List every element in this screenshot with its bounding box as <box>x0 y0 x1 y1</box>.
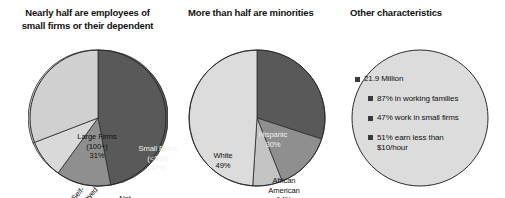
pie-chart-employment: Large Firms (100+) 31% Small Firms (<100… <box>28 48 168 188</box>
legend-item-total: 21.9 Million <box>355 74 489 85</box>
pie-label-african-american: African American 14% <box>257 176 311 198</box>
page-title-employment: Nearly half are employees of small firms… <box>0 7 175 32</box>
pie-chart-minorities: Hispanic 30% White 49% African American … <box>187 48 327 188</box>
square-bullet-icon <box>355 77 360 82</box>
legend-item-low-wage: 51% earn less than $10/hour <box>368 133 489 154</box>
square-bullet-icon <box>368 96 373 101</box>
pie-label-hispanic: Hispanic 30% <box>247 130 299 149</box>
legend-item-label: 87% in working families <box>377 94 458 105</box>
chart-panel-minorities: More than half are minorities Hispanic 3… <box>175 0 340 198</box>
legend-item-label: 21.9 Million <box>364 74 403 85</box>
legend-item-small-firms: 47% work in small firms <box>368 113 489 124</box>
pie-label-large-firms: Large Firms (100+) 31% <box>66 132 128 161</box>
page-title-other-characteristics: Other characteristics <box>350 7 442 20</box>
legend-item-working-families: 87% in working families <box>368 94 489 105</box>
square-bullet-icon <box>368 116 373 121</box>
square-bullet-icon <box>368 135 373 140</box>
legend-item-label: 47% work in small firms <box>377 113 459 124</box>
chart-panel-other-characteristics: Other characteristics 21.9 Million 87% i… <box>340 0 505 198</box>
page-title-minorities: More than half are minorities <box>188 7 314 20</box>
legend-item-label: 51% earn less than $10/hour <box>377 133 444 154</box>
legend-other-characteristics: 21.9 Million 87% in working families 47%… <box>355 74 489 163</box>
disc-other-characteristics: 21.9 Million 87% in working families 47%… <box>350 48 490 188</box>
chart-panel-employment: Nearly half are employees of small firms… <box>0 0 175 198</box>
pie-label-white: White 49% <box>200 151 246 170</box>
